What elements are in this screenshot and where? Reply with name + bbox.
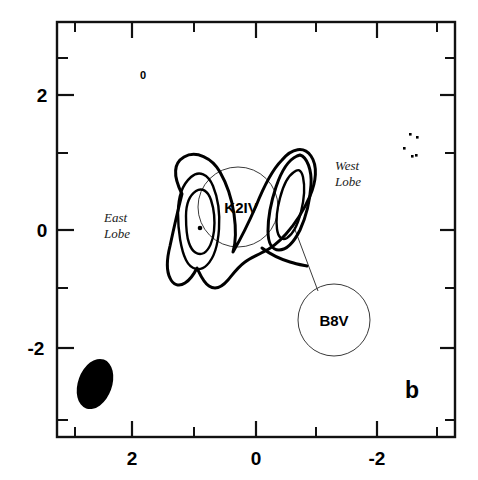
contour-figure-panel-b: 2 0 -2 2 0 -2 0 bbox=[0, 0, 478, 480]
synthesized-beam-ellipse bbox=[70, 354, 120, 414]
x-axis-label-neg2: -2 bbox=[369, 448, 386, 469]
east-lobe-label-line2: Lobe bbox=[103, 226, 130, 241]
radio-contour-group bbox=[167, 150, 315, 288]
speck-artifact-group bbox=[403, 133, 419, 158]
x-axis-label-0: 0 bbox=[251, 448, 262, 469]
east-lobe-peak-marker bbox=[198, 226, 203, 231]
y-axis-ticks bbox=[57, 58, 74, 420]
x-axis-ticks-top bbox=[75, 22, 437, 38]
contour-level-inner-east bbox=[186, 189, 214, 254]
speck-dot bbox=[409, 133, 412, 136]
west-lobe-label-line2: Lobe bbox=[334, 174, 361, 189]
panel-label-b: b bbox=[405, 377, 419, 403]
speck-dot bbox=[403, 147, 406, 150]
k2iv-label: K2IV bbox=[224, 199, 257, 216]
x-axis-ticks bbox=[75, 421, 437, 437]
y-axis-label-neg2: -2 bbox=[28, 338, 45, 359]
plot-artifact-zero-label: 0 bbox=[140, 69, 146, 81]
contour-level-outer bbox=[167, 150, 315, 288]
b8v-label: B8V bbox=[319, 312, 348, 329]
x-axis-label-2: 2 bbox=[127, 448, 138, 469]
east-lobe-label-line1: East bbox=[103, 210, 128, 225]
y-axis-tick-labels: 2 0 -2 bbox=[28, 85, 48, 359]
speck-dot bbox=[411, 155, 414, 158]
contour-plot-canvas: 2 0 -2 2 0 -2 0 bbox=[0, 0, 478, 480]
y-axis-label-2: 2 bbox=[37, 85, 48, 106]
x-axis-tick-labels: 2 0 -2 bbox=[127, 448, 386, 469]
west-lobe-label-line1: West bbox=[335, 158, 359, 173]
speck-dot bbox=[415, 154, 418, 157]
y-axis-ticks-right bbox=[440, 58, 455, 420]
speck-dot bbox=[416, 136, 419, 139]
y-axis-label-0: 0 bbox=[37, 220, 48, 241]
